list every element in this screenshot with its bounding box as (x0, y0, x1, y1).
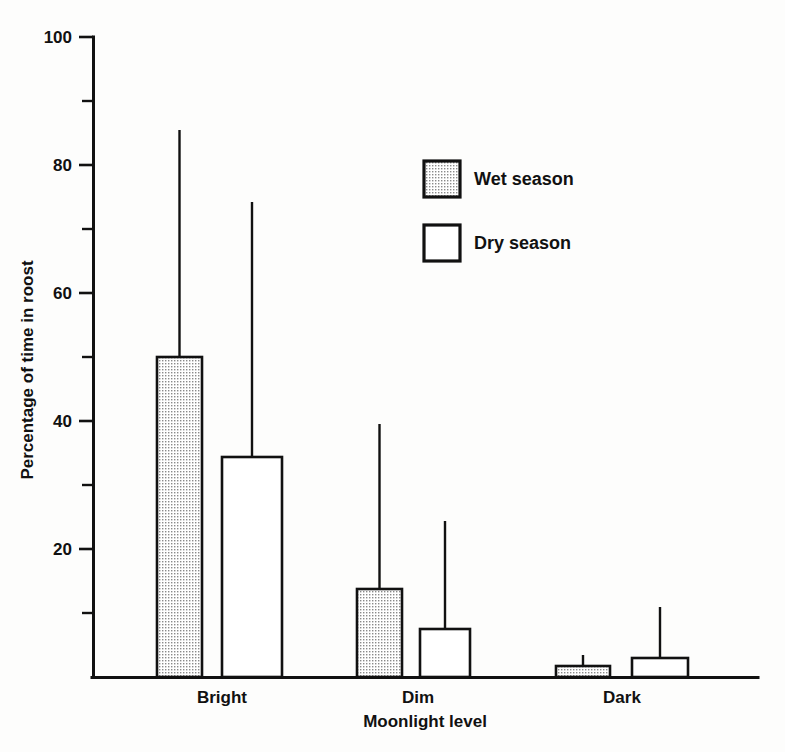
legend-item-wet-season[interactable]: Wet season (424, 161, 574, 197)
legend: Wet season Dry season (424, 161, 574, 261)
bar-wet-dark[interactable] (556, 666, 610, 677)
y-axis-title: Percentage of time in roost (18, 260, 37, 479)
legend-label-dry-season: Dry season (474, 233, 571, 253)
figure-root: 100 80 60 40 20 Percentage of time in ro… (0, 0, 785, 752)
bar-chart: 100 80 60 40 20 Percentage of time in ro… (0, 0, 785, 752)
y-tick-label: 20 (53, 540, 72, 559)
bar-dry-bright[interactable] (222, 457, 282, 677)
y-tick-label: 60 (53, 284, 72, 303)
bar-wet-bright[interactable] (157, 357, 202, 677)
legend-item-dry-season[interactable]: Dry season (424, 225, 571, 261)
x-tick-label-dark: Dark (603, 688, 641, 707)
bar-dry-dark[interactable] (632, 658, 688, 677)
y-axis-tick-labels: 100 80 60 40 20 (44, 28, 72, 559)
x-tick-label-bright: Bright (197, 688, 247, 707)
x-tick-label-dim: Dim (402, 688, 434, 707)
bar-wet-dim[interactable] (357, 589, 402, 677)
bar-dry-dim[interactable] (420, 629, 470, 677)
x-axis-title: Moonlight level (363, 712, 487, 731)
bar-group-dark: Dark (556, 607, 688, 707)
y-tick-label: 100 (44, 28, 72, 47)
y-axis-major-ticks (79, 37, 93, 549)
legend-label-wet-season: Wet season (474, 169, 574, 189)
y-axis-minor-ticks (82, 101, 93, 613)
y-tick-label: 80 (53, 156, 72, 175)
y-tick-label: 40 (53, 412, 72, 431)
legend-swatch-wet-season (424, 161, 460, 197)
bar-group-bright: Bright (157, 130, 282, 707)
bar-group-dim: Dim (357, 424, 470, 707)
legend-swatch-dry-season (424, 225, 460, 261)
